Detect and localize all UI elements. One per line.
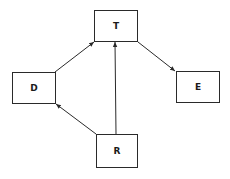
edge-d-to-t — [55, 42, 94, 72]
edge-r-to-t — [115, 42, 116, 134]
node-r-label: R — [114, 146, 121, 156]
node-e-label: E — [195, 82, 201, 92]
diagram-canvas: T D E R — [0, 0, 230, 179]
node-e: E — [176, 71, 220, 103]
node-r: R — [96, 134, 138, 168]
node-t: T — [94, 10, 138, 42]
edge-r-to-d — [56, 104, 96, 134]
node-d: D — [12, 72, 56, 104]
edge-t-to-e — [138, 42, 175, 71]
node-t-label: T — [113, 21, 119, 31]
node-d-label: D — [30, 83, 37, 93]
